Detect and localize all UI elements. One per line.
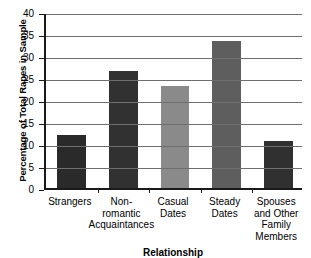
x-axis-label-line: Family [241, 219, 311, 231]
y-tick-mark [39, 146, 44, 147]
x-axis-category-labels: StrangersNon-romanticAcquaintancesCasual… [44, 196, 306, 252]
x-tick-mark [252, 188, 253, 193]
y-tick-mark [39, 14, 44, 15]
y-tick-label: 5 [12, 163, 34, 173]
gridline [46, 124, 302, 125]
y-tick-mark [39, 80, 44, 81]
gridline [46, 14, 302, 15]
x-axis-label-line: Members [241, 231, 311, 243]
y-tick-label: 25 [12, 75, 34, 85]
bars-layer [46, 14, 302, 188]
y-tick-mark [39, 36, 44, 37]
y-tick-mark [39, 124, 44, 125]
y-tick-label: 20 [12, 97, 34, 107]
y-tick-label: 40 [12, 9, 34, 19]
x-axis-label-line: Spouses [241, 196, 311, 208]
y-tick-label: 0 [12, 185, 34, 195]
gridline [46, 102, 302, 103]
plot-area [44, 14, 302, 190]
bar [57, 135, 86, 188]
gridline [46, 58, 302, 59]
y-tick-mark [39, 190, 44, 191]
y-tick-label: 10 [12, 141, 34, 151]
gridline [46, 146, 302, 147]
x-axis-label-line: and Other [241, 208, 311, 220]
y-tick-label: 35 [12, 31, 34, 41]
x-tick-mark [201, 188, 202, 193]
gridline [46, 36, 302, 37]
gridline [46, 80, 302, 81]
bar [264, 141, 293, 188]
gridline [46, 168, 302, 169]
y-tick-mark [39, 58, 44, 59]
y-tick-mark [39, 102, 44, 103]
x-tick-mark [149, 188, 150, 193]
bar [109, 71, 138, 188]
x-axis-label-line: Acquaintances [86, 219, 156, 231]
bar [212, 41, 241, 188]
x-tick-mark [98, 188, 99, 193]
y-tick-mark [39, 168, 44, 169]
y-tick-label: 30 [12, 53, 34, 63]
x-axis-title: Relationship [44, 247, 302, 258]
y-tick-label: 15 [12, 119, 34, 129]
x-axis-label: Spousesand OtherFamilyMembers [241, 196, 311, 242]
